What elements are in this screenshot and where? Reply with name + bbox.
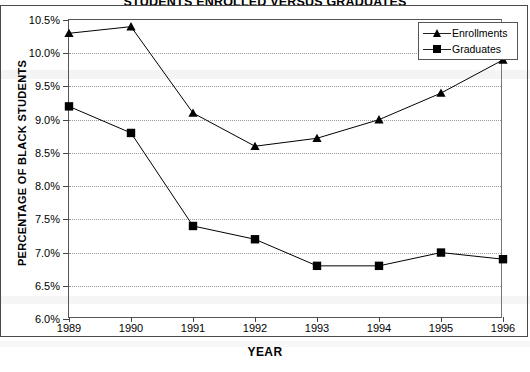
data-point-square (313, 262, 321, 270)
legend-item-enrollments: Enrollments (422, 25, 514, 41)
y-axis-tick (63, 153, 69, 154)
x-axis-tick-label: 1989 (57, 322, 81, 334)
triangle-marker-icon (422, 27, 452, 39)
data-point-triangle (312, 134, 321, 142)
y-axis-tick (63, 186, 69, 187)
y-axis-tick-label: 8.0% (35, 180, 60, 192)
data-point-triangle (374, 115, 383, 123)
y-axis-tick (63, 120, 69, 121)
x-axis-tick-label: 1990 (119, 322, 143, 334)
y-axis-tick (63, 219, 69, 220)
y-axis-tick (63, 53, 69, 54)
data-point-square (127, 129, 135, 137)
y-axis-tick-label: 9.5% (35, 80, 60, 92)
data-point-square (375, 262, 383, 270)
data-point-square (65, 102, 73, 110)
data-point-square (251, 235, 259, 243)
x-axis-tick-label: 1994 (367, 322, 391, 334)
y-axis-tick (63, 253, 69, 254)
x-axis-tick-label: 1991 (181, 322, 205, 334)
y-axis-tick-label: 10.5% (29, 14, 60, 26)
chart-legend: Enrollments Graduates (418, 22, 518, 60)
x-axis-tick-label: 1993 (305, 322, 329, 334)
x-axis-title: YEAR (0, 345, 530, 359)
series-lines (69, 20, 503, 319)
y-axis-tick-label: 8.5% (35, 147, 60, 159)
y-axis-tick-label: 7.0% (35, 247, 60, 259)
y-axis-tick-label: 7.5% (35, 213, 60, 225)
y-axis-tick-label: 10.0% (29, 47, 60, 59)
x-axis-tick-label: 1995 (429, 322, 453, 334)
legend-label-enrollments: Enrollments (452, 27, 507, 39)
y-axis-tick (63, 20, 69, 21)
plot-area: 6.0%6.5%7.0%7.5%8.0%8.5%9.0%9.5%10.0%10.… (68, 19, 502, 318)
square-marker-icon (422, 43, 452, 55)
y-axis-tick (63, 286, 69, 287)
legend-label-graduates: Graduates (452, 43, 501, 55)
data-point-triangle (436, 88, 445, 96)
data-point-square (437, 248, 445, 256)
y-axis-tick-label: 6.5% (35, 280, 60, 292)
x-axis-tick-label: 1996 (491, 322, 515, 334)
data-point-triangle (126, 22, 135, 30)
data-point-square (189, 222, 197, 230)
data-point-square (499, 255, 507, 263)
x-axis-tick-label: 1992 (243, 322, 267, 334)
y-axis-title: PERCENTAGE OF BLACK STUDENTS (16, 48, 28, 278)
y-axis-tick-label: 9.0% (35, 114, 60, 126)
data-point-triangle (188, 108, 197, 116)
legend-item-graduates: Graduates (422, 41, 514, 57)
y-axis-tick (63, 86, 69, 87)
